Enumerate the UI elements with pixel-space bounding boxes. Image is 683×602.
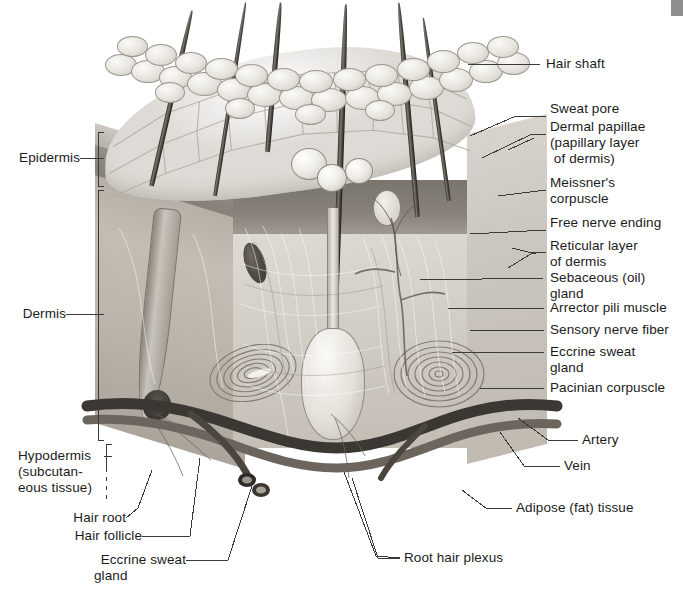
label-epidermis: Epidermis [16,150,80,166]
scan-edge-artifact [671,0,683,16]
label-root-hair-plexus: Root hair plexus [404,550,503,566]
label-eccrine-sweat-gland-right-line2: gland [550,360,584,376]
label-eccrine-sweat-gland-left-line2: gland [94,568,186,584]
label-sebaceous-gland: Sebaceous (oil) [550,270,645,286]
label-dermal-papillae-line3: of dermis) [550,151,615,167]
label-meissners-corpuscle-line2: corpuscle [550,191,609,207]
label-hair-shaft: Hair shaft [546,56,605,72]
label-sensory-nerve-fiber: Sensory nerve fiber [550,322,669,338]
label-arrector-pili-muscle: Arrector pili muscle [550,300,667,316]
label-artery: Artery [582,432,619,448]
blood-vessel-network [95,28,550,558]
label-sweat-pore: Sweat pore [550,101,619,117]
label-dermis: Dermis [10,306,66,322]
figure-canvas: Hair shaft Sweat pore Dermal papillae (p… [0,0,683,602]
label-adipose-tissue: Adipose (fat) tissue [516,500,634,516]
label-eccrine-sweat-gland-right: Eccrine sweat [550,344,635,360]
label-hair-follicle: Hair follicle [56,528,142,544]
label-hypodermis: Hypodermis [18,448,91,464]
label-reticular-layer: Reticular layer [550,238,638,254]
label-dermal-papillae: Dermal papillae [550,119,645,135]
label-hypodermis-line2: (subcutan- [18,464,83,480]
label-reticular-layer-line2: of dermis [550,254,606,270]
label-dermal-papillae-line2: (papillary layer [550,135,639,151]
label-meissners-corpuscle: Meissner's [550,175,615,191]
label-eccrine-sweat-gland-left: Eccrine sweat [76,552,186,568]
label-free-nerve-ending: Free nerve ending [550,215,661,231]
label-pacinian-corpuscle: Pacinian corpuscle [550,380,665,396]
label-hypodermis-line3: eous tissue) [18,480,92,496]
label-hair-root: Hair root [56,510,126,526]
skin-cross-section-illustration [95,28,550,558]
label-vein: Vein [564,458,591,474]
